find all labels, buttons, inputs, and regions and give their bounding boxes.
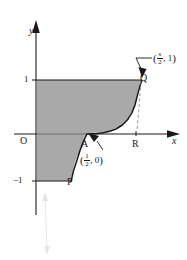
y-tick-label-one: 1 — [24, 75, 29, 84]
q-open-paren: ( — [153, 52, 157, 64]
y-tick-label-negative-one: −1 — [13, 176, 23, 185]
y-axis-label: y — [29, 26, 33, 36]
a-close-paren: ) — [99, 154, 103, 166]
q-fraction: s2 — [157, 51, 163, 67]
a-open-paren: ( — [80, 154, 84, 166]
origin-label: O — [20, 136, 27, 146]
scan-artifact — [42, 192, 50, 255]
x-axis-label: x — [172, 136, 176, 146]
q-fraction-numerator: s — [157, 51, 163, 58]
a-fraction-denominator: 2 — [84, 160, 90, 168]
point-label-a: A — [81, 139, 88, 149]
q-close-paren: ) — [172, 52, 176, 64]
shaded-region-upper — [37, 80, 142, 133]
a-fraction-numerator: 1 — [84, 153, 90, 160]
leader-line-a — [97, 141, 103, 150]
point-label-q: Q — [140, 73, 147, 83]
coordinate-graph-figure — [0, 0, 187, 260]
annotation-q-coordinate: (s2, 1) — [153, 51, 176, 67]
point-label-p: P — [67, 177, 73, 187]
q-fraction-denominator: 2 — [157, 58, 163, 66]
a-fraction: 12 — [84, 153, 90, 169]
annotation-a-coordinate: (12, 0) — [80, 153, 103, 169]
point-label-r: R — [132, 139, 139, 149]
